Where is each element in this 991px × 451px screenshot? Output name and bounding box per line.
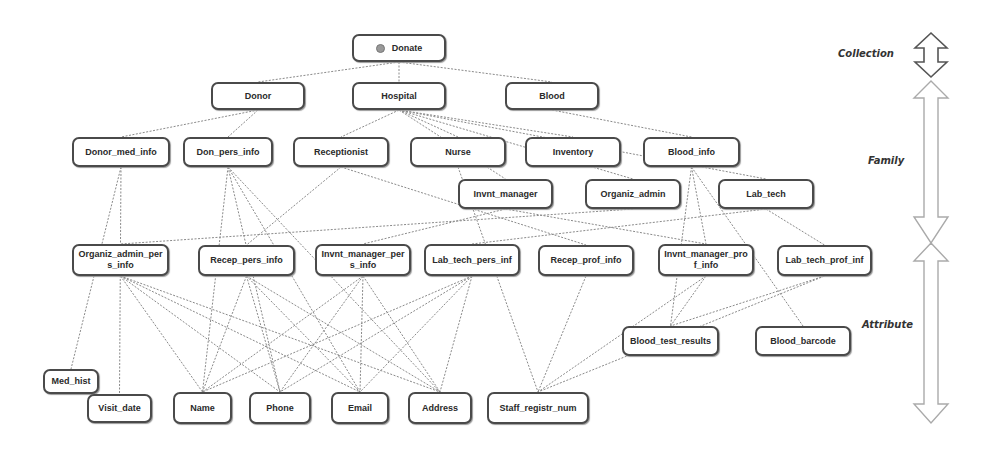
- node-label: Med_hist: [51, 376, 90, 387]
- node-invnt-manager-prof-info[interactable]: Invnt_manager_prof_info: [658, 244, 754, 276]
- node-label: Staff_registr_num: [499, 403, 576, 414]
- node-label: Blood_info: [668, 147, 715, 158]
- node-label: Address: [422, 403, 458, 414]
- attribute-arrow-icon: [914, 243, 948, 423]
- node-label: Recep_prof_info: [550, 255, 621, 266]
- node-label: Don_pers_info: [196, 147, 259, 158]
- node-inventory[interactable]: Inventory: [525, 137, 621, 167]
- node-label: Recep_pers_info: [210, 255, 283, 266]
- node-recep-prof-info[interactable]: Recep_prof_info: [538, 245, 634, 276]
- node-label: Organiz_admin: [600, 189, 665, 200]
- node-label: Hospital: [381, 91, 417, 102]
- node-label: Inventory: [553, 147, 594, 158]
- node-staff-registr-num[interactable]: Staff_registr_num: [487, 392, 589, 424]
- node-recep-pers-info[interactable]: Recep_pers_info: [198, 245, 295, 276]
- node-name[interactable]: Name: [173, 392, 232, 424]
- level-label-attribute: Attribute: [862, 319, 913, 330]
- node-phone[interactable]: Phone: [249, 392, 311, 424]
- node-label: Lab_tech_pers_inf: [432, 255, 512, 266]
- node-don-pers-info[interactable]: Don_pers_info: [183, 137, 273, 167]
- node-label: Blood: [539, 91, 565, 102]
- node-nurse[interactable]: Nurse: [410, 137, 506, 167]
- node-hospital[interactable]: Hospital: [352, 82, 446, 110]
- node-blood-barcode[interactable]: Blood_barcode: [755, 326, 851, 356]
- node-invnt-manager[interactable]: Invnt_manager: [458, 179, 553, 209]
- node-label: Name: [190, 403, 215, 414]
- node-label: Lab_tech_prof_inf: [785, 255, 863, 266]
- node-label: Blood_barcode: [770, 336, 836, 347]
- node-label: Donor: [245, 91, 272, 102]
- node-label: Invnt_manager_pers_info: [320, 249, 406, 271]
- node-donor[interactable]: Donor: [211, 82, 305, 110]
- node-label: Invnt_manager: [473, 189, 537, 200]
- node-receptionist[interactable]: Receptionist: [293, 137, 389, 167]
- node-email[interactable]: Email: [331, 392, 389, 424]
- node-lab-tech[interactable]: Lab_tech: [718, 179, 814, 209]
- node-label: Phone: [266, 403, 294, 414]
- node-lab-tech-pers-inf[interactable]: Lab_tech_pers_inf: [424, 244, 520, 276]
- family-arrow-icon: [914, 81, 948, 243]
- node-label: Donate: [392, 43, 423, 54]
- node-organiz-admin[interactable]: Organiz_admin: [585, 179, 681, 209]
- node-label: Visit_date: [98, 403, 140, 414]
- node-lab-tech-prof-inf[interactable]: Lab_tech_prof_inf: [777, 245, 872, 276]
- node-donate[interactable]: Donate: [352, 34, 446, 62]
- node-organiz-admin-pers-info[interactable]: Organiz_admin_pers_info: [72, 244, 169, 276]
- node-blood-test-results[interactable]: Blood_test_results: [622, 326, 719, 356]
- node-visit-date[interactable]: Visit_date: [87, 394, 152, 423]
- node-blood[interactable]: Blood: [505, 82, 599, 110]
- root-dot-icon: [376, 44, 385, 53]
- node-invnt-manager-pers-info[interactable]: Invnt_manager_pers_info: [315, 244, 411, 276]
- node-blood-info[interactable]: Blood_info: [643, 137, 740, 167]
- node-label: Nurse: [445, 147, 471, 158]
- node-med-hist[interactable]: Med_hist: [43, 369, 99, 394]
- node-label: Lab_tech: [746, 189, 786, 200]
- level-label-family: Family: [868, 155, 904, 166]
- level-arrows: [0, 0, 991, 451]
- node-label: Email: [348, 403, 372, 414]
- node-label: Blood_test_results: [630, 336, 711, 347]
- node-address[interactable]: Address: [408, 392, 472, 424]
- node-label: Receptionist: [314, 147, 368, 158]
- node-label: Donor_med_info: [85, 147, 157, 158]
- node-label: Invnt_manager_prof_info: [663, 249, 749, 271]
- node-donor-med-info[interactable]: Donor_med_info: [72, 137, 170, 167]
- node-label: Organiz_admin_pers_info: [77, 249, 164, 271]
- level-label-collection: Collection: [838, 48, 894, 59]
- collection-arrow-icon: [915, 33, 947, 77]
